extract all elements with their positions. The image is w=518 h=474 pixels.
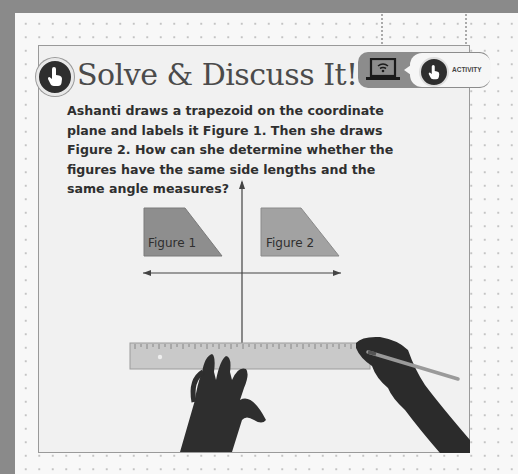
coordinate-plane-figure (0, 0, 518, 474)
figure-2-label: Figure 2 (266, 236, 314, 250)
figure-1-label: Figure 1 (148, 236, 196, 250)
